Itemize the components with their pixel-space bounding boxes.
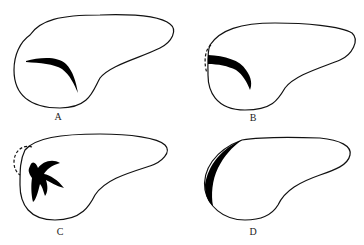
duct-shape-b <box>208 55 251 90</box>
panel-b: B <box>205 23 355 123</box>
panel-d: D <box>205 137 351 237</box>
panel-c: C <box>14 134 167 237</box>
panel-label-a: A <box>54 111 62 122</box>
diagram-canvas: A B C D <box>0 0 364 245</box>
panel-label-b: B <box>250 112 257 123</box>
panel-label-c: C <box>57 226 64 237</box>
stellate-lesion-c <box>29 161 64 202</box>
panel-a: A <box>14 15 174 122</box>
duct-shape-a <box>26 58 78 93</box>
panel-label-d: D <box>249 226 256 237</box>
